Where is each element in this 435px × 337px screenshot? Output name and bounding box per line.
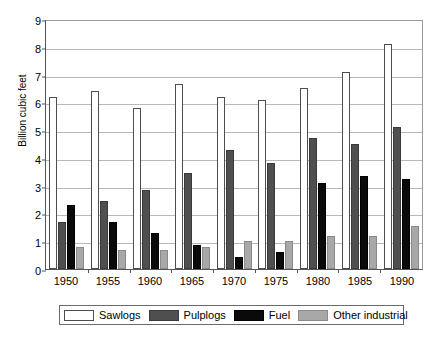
bar-sawlogs-1990[interactable] [384, 44, 392, 269]
y-axis-title: Billion cubic feet [17, 41, 28, 181]
legend-swatch-pulplogs-icon [149, 310, 179, 321]
y-tick-label: 8 [35, 43, 41, 55]
bar-other-1985[interactable] [369, 236, 377, 269]
legend-label-other: Other industrial [333, 309, 408, 321]
bar-sawlogs-1955[interactable] [91, 91, 99, 269]
y-tick-mark [42, 271, 46, 272]
bar-group-1970 [213, 21, 255, 269]
bar-other-1975[interactable] [285, 241, 293, 269]
bar-group-1985 [338, 21, 380, 269]
bar-group-1975 [255, 21, 297, 269]
legend-item-other[interactable]: Other industrial [298, 309, 408, 321]
bar-other-1955[interactable] [118, 250, 126, 269]
bar-group-1965 [171, 21, 213, 269]
bar-group-1980 [297, 21, 339, 269]
bar-sawlogs-1975[interactable] [258, 100, 266, 269]
legend-label-sawlogs: Sawlogs [99, 309, 141, 321]
y-tick-label: 7 [35, 71, 41, 83]
x-axis-labels: 195019551960196519701975198019851990 [45, 273, 423, 291]
bar-pulplogs-1975[interactable] [267, 163, 275, 269]
bar-fuel-1985[interactable] [360, 176, 368, 269]
x-tick-label-1985: 1985 [339, 273, 381, 291]
bar-other-1980[interactable] [327, 236, 335, 269]
bar-fuel-1960[interactable] [151, 233, 159, 269]
legend-item-sawlogs[interactable]: Sawlogs [64, 309, 141, 321]
y-tick-label: 6 [35, 98, 41, 110]
bar-fuel-1990[interactable] [402, 179, 410, 269]
bar-groups [46, 21, 422, 269]
bar-pulplogs-1950[interactable] [58, 222, 66, 269]
legend-swatch-other-icon [298, 310, 328, 321]
bar-other-1960[interactable] [160, 250, 168, 269]
bar-sawlogs-1970[interactable] [217, 97, 225, 269]
legend-item-pulplogs[interactable]: Pulplogs [149, 309, 226, 321]
bar-chart: Billion cubic feet 9876543210 1950195519… [0, 0, 435, 337]
bar-sawlogs-1960[interactable] [133, 108, 141, 269]
legend-item-fuel[interactable]: Fuel [234, 309, 290, 321]
bar-sawlogs-1980[interactable] [300, 88, 308, 269]
x-tick-label-1975: 1975 [255, 273, 297, 291]
bar-group-1960 [130, 21, 172, 269]
bar-other-1970[interactable] [244, 241, 252, 269]
bar-pulplogs-1970[interactable] [226, 150, 234, 269]
x-tick-label-1970: 1970 [213, 273, 255, 291]
chart-legend: SawlogsPulplogsFuelOther industrial [59, 305, 404, 325]
bar-sawlogs-1985[interactable] [342, 72, 350, 269]
bar-fuel-1965[interactable] [193, 245, 201, 269]
x-tick-label-1990: 1990 [381, 273, 423, 291]
x-tick-label-1980: 1980 [297, 273, 339, 291]
legend-label-pulplogs: Pulplogs [184, 309, 226, 321]
bar-group-1990 [380, 21, 422, 269]
x-tick-label-1950: 1950 [45, 273, 87, 291]
bar-other-1990[interactable] [411, 226, 419, 269]
bar-fuel-1970[interactable] [235, 257, 243, 270]
y-tick-label: 1 [35, 237, 41, 249]
bar-group-1950 [46, 21, 88, 269]
y-tick-label: 4 [35, 154, 41, 166]
plot-area: 9876543210 [45, 20, 423, 270]
bar-sawlogs-1950[interactable] [49, 97, 57, 269]
bar-pulplogs-1955[interactable] [100, 201, 108, 269]
bar-pulplogs-1985[interactable] [351, 144, 359, 269]
x-tick-label-1960: 1960 [129, 273, 171, 291]
y-tick-label: 5 [35, 126, 41, 138]
legend-label-fuel: Fuel [269, 309, 290, 321]
y-tick-label: 0 [35, 265, 41, 277]
bar-other-1950[interactable] [76, 247, 84, 269]
bar-group-1955 [88, 21, 130, 269]
y-tick-label: 3 [35, 182, 41, 194]
legend-swatch-fuel-icon [234, 310, 264, 321]
bar-fuel-1975[interactable] [276, 252, 284, 269]
y-tick-label: 9 [35, 15, 41, 27]
y-tick-label: 2 [35, 209, 41, 221]
bar-pulplogs-1980[interactable] [309, 138, 317, 269]
bar-pulplogs-1990[interactable] [393, 127, 401, 269]
bar-fuel-1980[interactable] [318, 183, 326, 269]
bar-fuel-1950[interactable] [67, 205, 75, 269]
bar-other-1965[interactable] [202, 247, 210, 269]
x-tick-label-1965: 1965 [171, 273, 213, 291]
x-tick-label-1955: 1955 [87, 273, 129, 291]
bar-sawlogs-1965[interactable] [175, 84, 183, 269]
bar-pulplogs-1960[interactable] [142, 190, 150, 269]
bar-fuel-1955[interactable] [109, 222, 117, 269]
legend-swatch-sawlogs-icon [64, 310, 94, 321]
bar-pulplogs-1965[interactable] [184, 173, 192, 269]
